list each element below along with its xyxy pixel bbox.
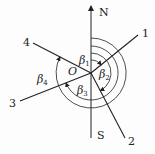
angle-beta4-label: β4 — [37, 74, 48, 87]
diagram-lines — [0, 0, 155, 154]
angle-beta1-label: β1 — [79, 55, 90, 68]
angle-arc-beta1 — [91, 60, 101, 65]
south-label: S — [97, 130, 105, 141]
compass-bearing-diagram: N S O 1 2 3 4 β1 β2 β3 β4 — [0, 0, 155, 154]
line-4-label: 4 — [23, 37, 30, 48]
angle-beta2-label: β2 — [99, 69, 110, 82]
line-2-label: 2 — [128, 136, 135, 147]
line-3-label: 3 — [9, 98, 16, 109]
north-label: N — [99, 7, 109, 18]
origin-label: O — [68, 66, 77, 77]
angle-beta3-label: β3 — [77, 85, 88, 98]
line-1-label: 1 — [142, 28, 149, 39]
